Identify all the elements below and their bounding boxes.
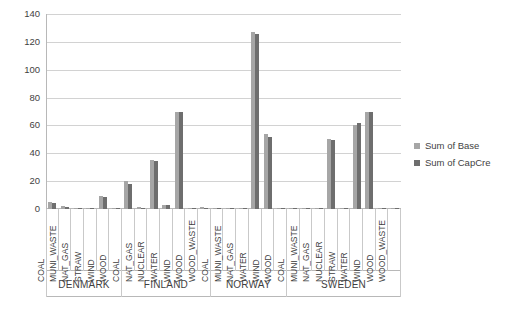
category-tick-wood_waste: WOOD_WASTE: [388, 209, 401, 271]
bar-group: [46, 14, 59, 209]
y-axis-tick-label: 140: [0, 9, 40, 19]
group-label-norway: NORWAY: [211, 271, 287, 297]
bar-group: [109, 14, 122, 209]
bar-group: [325, 14, 338, 209]
bar-capcre: [331, 140, 335, 209]
bar-group: [185, 14, 198, 209]
bar-capcre: [103, 197, 107, 209]
bar-capcre: [369, 112, 373, 209]
bar-group: [388, 14, 401, 209]
bar-group: [147, 14, 160, 209]
group-label-sweden: SWEDEN: [287, 271, 401, 297]
y-axis-tick-label: 60: [0, 120, 40, 130]
legend-item[interactable]: Sum of CapCre: [414, 157, 510, 168]
bar-group: [376, 14, 389, 209]
bar-capcre: [268, 137, 272, 209]
bar-group: [173, 14, 186, 209]
bar-capcre: [255, 34, 259, 210]
bar-group: [236, 14, 249, 209]
bar-group: [211, 14, 224, 209]
bar-group: [84, 14, 97, 209]
y-axis-tick-label: 120: [0, 37, 40, 47]
bar-group: [198, 14, 211, 209]
legend-item[interactable]: Sum of Base: [414, 140, 510, 151]
bar-group: [160, 14, 173, 209]
legend-item-label: Sum of CapCre: [425, 157, 490, 168]
bar-group: [97, 14, 110, 209]
bar-capcre: [154, 161, 158, 209]
chart-legend: Sum of BaseSum of CapCre: [414, 140, 510, 174]
bar-group: [300, 14, 313, 209]
bar-group: [338, 14, 351, 209]
bar-group: [262, 14, 275, 209]
bar-group: [249, 14, 262, 209]
legend-swatch-icon: [414, 160, 420, 166]
bar-group: [274, 14, 287, 209]
bar-capcre: [128, 184, 132, 209]
group-label-denmark: DENMARK: [46, 271, 122, 297]
bar-group: [135, 14, 148, 209]
y-axis-tick-label: 40: [0, 148, 40, 158]
bar-group: [287, 14, 300, 209]
bar-group: [71, 14, 84, 209]
bar-series-container: [46, 14, 401, 209]
y-axis-tick-label: 80: [0, 93, 40, 103]
bar-capcre: [357, 123, 361, 209]
bar-group: [312, 14, 325, 209]
group-label-finland: FINLAND: [122, 271, 211, 297]
y-axis-tick-label: 100: [0, 65, 40, 75]
legend-item-label: Sum of Base: [425, 140, 479, 151]
bar-group: [122, 14, 135, 209]
bar-group: [59, 14, 72, 209]
legend-swatch-icon: [414, 143, 420, 149]
bar-group: [363, 14, 376, 209]
bar-group: [350, 14, 363, 209]
bar-capcre: [179, 112, 183, 209]
y-axis-tick-label: 0: [0, 204, 40, 214]
category-axis: COALMUNI_WASTENAT_GASSTRAWWINDWOODCOALNA…: [46, 209, 401, 271]
y-axis-tick-label: 20: [0, 176, 40, 186]
bar-group: [224, 14, 237, 209]
pivot-column-chart: 140120100806040200 COALMUNI_WASTENAT_GAS…: [0, 0, 512, 318]
group-axis: DENMARKFINLANDNORWAYSWEDEN: [46, 271, 401, 297]
